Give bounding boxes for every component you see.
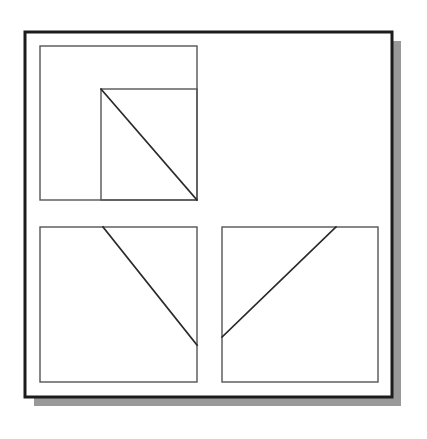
figure-root xyxy=(0,0,427,439)
figure-canvas xyxy=(0,0,427,439)
outer-border xyxy=(25,32,392,397)
